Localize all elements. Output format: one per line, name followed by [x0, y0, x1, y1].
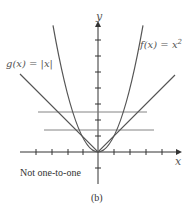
g-label: g(x) = |x|	[6, 58, 53, 69]
f-label: f(x) = x2	[140, 38, 182, 50]
horizontal-lines	[38, 112, 154, 130]
f-label-exponent: 2	[178, 38, 182, 46]
x-axis-label: x	[175, 155, 181, 168]
y-axis-label: y	[96, 10, 102, 23]
caption: (b)	[91, 192, 103, 203]
annotation-not-one-to-one: Not one-to-one	[20, 167, 81, 178]
plot-canvas	[0, 0, 187, 211]
figure: y x f(x) = x2 g(x) = |x| Not one-to-one …	[0, 0, 187, 211]
f-label-text: f(x) = x	[140, 39, 178, 50]
